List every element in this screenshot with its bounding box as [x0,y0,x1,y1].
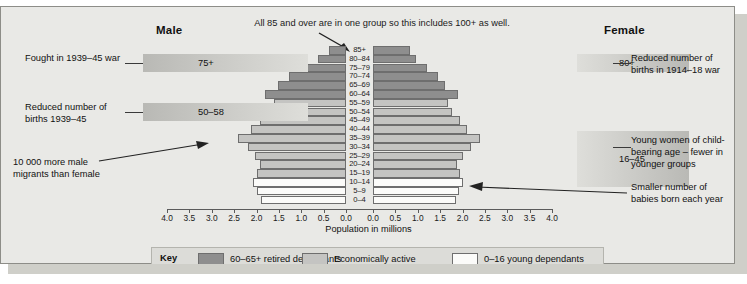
annotation-reduced-births-14: Reduced number of births in 1914–18 war [631,53,733,77]
bar-male-60–64 [265,90,346,99]
bar-female-55–59 [373,99,448,108]
bar-female-45–49 [373,116,460,125]
bar-female-85+ [373,46,410,55]
bar-male-5–9 [257,187,346,196]
bar-male-80–84 [318,55,346,64]
band-value-fought-war: 75+ [198,54,214,72]
band-reduced-births-39: 50–58 [143,103,308,121]
bar-female-35–39 [373,134,480,143]
bar-female-80–84 [373,55,416,64]
x-tick-label-left-2.5: 2.5 [222,213,246,223]
x-tick-label-left-3.5: 3.5 [177,213,201,223]
bar-female-50–54 [373,108,452,117]
x-tick-label-right-1.5: 1.5 [428,213,452,223]
figure-panel: Male Female All 85 and over are in one g… [0,6,735,264]
bar-female-25–29 [373,152,463,161]
annotation-child-bearing: Young women of child-bearing age – fewer… [631,135,733,171]
annotation-reduced-births-39: Reduced number of births 1939–45 [25,102,125,126]
x-tick-label-left-4.0: 4.0 [155,213,179,223]
band-fought-war: 75+ [143,54,308,72]
bar-female-20–24 [373,160,457,169]
age-label-0–4: 0–4 [346,196,373,205]
x-tick-label-right-3.5: 3.5 [518,213,542,223]
x-tick-label-left-2.0: 2.0 [245,213,269,223]
bar-female-70–74 [373,72,438,81]
x-tick-label-right-2.0: 2.0 [451,213,475,223]
x-tick-label-left-0.0: 0.0 [334,213,358,223]
x-tick-label-right-2.5: 2.5 [473,213,497,223]
leader-child-bearing [613,147,631,148]
x-axis-title: Population in millions [1,224,736,234]
bar-male-70–74 [289,72,346,81]
bar-male-10–14 [253,178,346,187]
bar-male-30–34 [248,143,346,152]
bar-female-15–19 [373,169,460,178]
bar-female-0–4 [373,196,456,205]
bar-female-5–9 [373,187,459,196]
band-value-reduced-births-39: 50–58 [198,103,224,121]
x-tick-label-right-1.0: 1.0 [406,213,430,223]
bar-male-20–24 [260,160,346,169]
panel-shadow-bottom [8,264,747,274]
migrants-arrow-icon [97,135,215,165]
bar-male-35–39 [238,134,346,143]
x-tick-label-right-0.5: 0.5 [383,213,407,223]
bar-male-0–4 [261,196,346,205]
bar-female-65–69 [373,81,445,90]
bar-male-75–79 [305,64,346,73]
bar-male-15–19 [257,169,347,178]
x-tick-label-left-3.0: 3.0 [200,213,224,223]
annotation-babies: Smaller number of babies born each year [631,182,733,206]
x-axis-line [167,209,552,210]
bar-female-10–14 [373,178,463,187]
bar-male-40–44 [251,125,346,134]
bar-male-65–69 [278,81,346,90]
bar-male-85+ [329,46,346,55]
babies-arrow-icon [463,179,629,201]
x-tick-label-left-0.5: 0.5 [312,213,336,223]
leader-fought-war [125,63,143,64]
key-label: Key [160,253,177,263]
annotation-fought-war: Fought in 1939–45 war [25,53,125,65]
x-tick-label-left-1.0: 1.0 [289,213,313,223]
bar-female-40–44 [373,125,467,134]
panel-shadow-right [735,14,747,272]
bar-female-60–64 [373,90,458,99]
leader-reduced-births-39 [125,112,143,113]
x-tick-label-right-4.0: 4.0 [540,213,564,223]
x-tick-label-right-0.0: 0.0 [361,213,385,223]
x-tick-label-right-3.0: 3.0 [495,213,519,223]
bar-female-75–79 [373,64,427,73]
bar-male-25–29 [255,152,346,161]
x-tick-label-left-1.5: 1.5 [267,213,291,223]
leader-reduced-births-14 [613,63,631,64]
bar-female-30–34 [373,143,471,152]
